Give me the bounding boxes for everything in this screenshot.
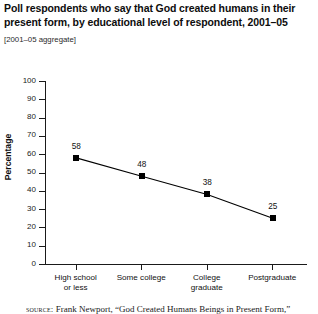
series-polyline bbox=[76, 158, 273, 218]
x-tick-mark bbox=[272, 265, 273, 270]
y-tick-label: 70 bbox=[27, 130, 36, 140]
page-title-line-2: present form, by educational level of re… bbox=[4, 15, 314, 29]
y-tick-label: 10 bbox=[27, 240, 36, 250]
x-axis-label: Postgraduate bbox=[232, 273, 312, 283]
y-tick-label: 0 bbox=[32, 259, 36, 269]
chart-subtitle: [2001–05 aggregate] bbox=[4, 35, 314, 45]
y-tick-label: 40 bbox=[27, 185, 36, 195]
y-tick-label: 80 bbox=[27, 112, 36, 122]
chart-header: Poll respondents who say that God create… bbox=[4, 1, 314, 45]
y-tick-label: 100 bbox=[23, 76, 36, 86]
x-axis-label-line: Postgraduate bbox=[232, 273, 312, 283]
data-point-marker bbox=[73, 155, 79, 161]
y-tick-label: 90 bbox=[27, 94, 36, 104]
series-line bbox=[0, 60, 318, 290]
data-point-value: 48 bbox=[122, 160, 162, 170]
y-tick-label: 30 bbox=[27, 204, 36, 214]
data-point-marker bbox=[270, 215, 276, 221]
y-tick-label: 20 bbox=[27, 222, 36, 232]
data-point-value: 38 bbox=[187, 178, 227, 188]
x-axis-line bbox=[45, 264, 307, 265]
y-axis-line bbox=[45, 81, 46, 265]
y-tick-label: 50 bbox=[27, 167, 36, 177]
page-title-line-1: Poll respondents who say that God create… bbox=[4, 1, 314, 15]
x-tick-mark bbox=[207, 265, 208, 270]
x-axis-label-line: graduate bbox=[167, 283, 247, 293]
data-point-marker bbox=[204, 191, 210, 197]
y-axis-title: Percentage bbox=[3, 122, 13, 192]
y-tick-label: 60 bbox=[27, 149, 36, 159]
data-point-marker bbox=[139, 173, 145, 179]
x-tick-mark bbox=[141, 265, 142, 270]
data-point-value: 25 bbox=[253, 202, 293, 212]
x-tick-mark bbox=[76, 265, 77, 270]
source-note: source: Frank Newport, “God Created Huma… bbox=[26, 304, 318, 314]
data-point-value: 58 bbox=[56, 142, 96, 152]
source-text: Frank Newport, “God Created Humans Being… bbox=[56, 304, 290, 314]
source-label: source: bbox=[26, 304, 54, 314]
line-chart: Percentage 0102030405060708090100 High s… bbox=[0, 60, 318, 290]
x-axis-label-line: or less bbox=[36, 283, 116, 293]
